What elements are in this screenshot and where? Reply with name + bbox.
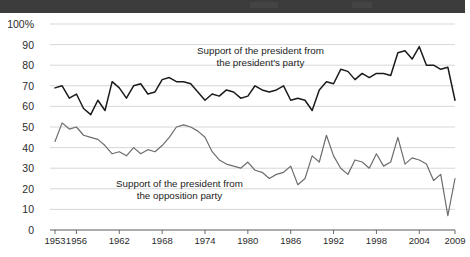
- annotation-president-line1: Support of the president from: [197, 45, 324, 57]
- x-tick-4: 1974: [188, 236, 222, 246]
- x-tick-10: 2009: [438, 236, 470, 246]
- annotation-opposition-line1: Support of the president from: [116, 178, 243, 190]
- x-tick-1: 1956: [59, 236, 93, 246]
- series-opposition-party-line: [55, 123, 455, 216]
- x-tick-9: 2004: [402, 236, 436, 246]
- annotation-opposition-line2: the opposition party: [116, 190, 243, 202]
- annotation-opposition-party: Support of the president from the opposi…: [116, 178, 243, 202]
- x-tick-7: 1992: [317, 236, 351, 246]
- annotation-president-line2: the president's party: [197, 57, 324, 69]
- x-tick-5: 1980: [231, 236, 265, 246]
- x-tick-8: 1998: [359, 236, 393, 246]
- x-tick-2: 1962: [102, 236, 136, 246]
- annotation-president-party: Support of the president from the presid…: [197, 45, 324, 69]
- x-tick-3: 1968: [145, 236, 179, 246]
- x-tick-marks: [55, 230, 455, 234]
- x-tick-6: 1986: [274, 236, 308, 246]
